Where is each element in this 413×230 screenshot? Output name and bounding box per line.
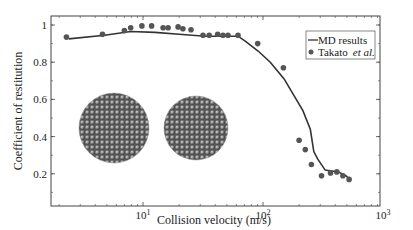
- takato-data-point: [128, 25, 134, 31]
- legend-dot-icon: [309, 50, 314, 55]
- chart-canvas: 0.20.40.60.81101102103 Collision velocit…: [0, 0, 413, 230]
- y-tick-label: 0.4: [33, 131, 47, 143]
- takato-data-point: [225, 32, 231, 38]
- legend: MD results Takatoet al.: [306, 31, 375, 59]
- y-tick-label: 0.2: [33, 168, 47, 180]
- takato-data-point: [346, 177, 352, 183]
- takato-data-point: [303, 147, 309, 153]
- takato-data-point: [180, 26, 186, 32]
- takato-data-point: [340, 173, 346, 179]
- takato-data-point: [165, 25, 171, 31]
- particle-cluster-images: [79, 93, 228, 163]
- legend-label-md: MD results: [318, 34, 367, 46]
- takato-data-point: [220, 32, 226, 38]
- particle-cluster-right: [164, 96, 228, 160]
- restitution-chart: 0.20.40.60.81101102103 Collision velocit…: [0, 0, 413, 230]
- takato-data-point: [100, 32, 106, 38]
- takato-data-point: [296, 138, 302, 144]
- takato-data-point: [149, 23, 155, 29]
- takato-data-point: [139, 23, 145, 29]
- y-tick-label: 0.8: [33, 56, 47, 68]
- takato-data-point: [188, 27, 194, 33]
- takato-data-point: [206, 32, 212, 38]
- takato-data-point: [122, 28, 128, 34]
- takato-data-point: [64, 34, 70, 40]
- takato-data-point: [215, 32, 221, 38]
- y-axis-label: Coefficient of restitution: [11, 52, 25, 170]
- takato-data-point: [328, 170, 334, 176]
- takato-data-point: [319, 173, 325, 179]
- takato-data-point: [309, 162, 315, 168]
- x-tick-label: 103: [376, 208, 391, 221]
- x-axis-label: Collision velocity (m/s): [157, 213, 271, 227]
- takato-data-point: [281, 65, 287, 71]
- takato-data-point: [235, 32, 241, 38]
- particle-cluster-left: [79, 93, 149, 163]
- takato-data-point: [200, 32, 206, 38]
- y-tick-label: 1: [42, 19, 48, 31]
- x-tick-label: 101: [136, 208, 151, 221]
- y-tick-label: 0.6: [33, 93, 47, 105]
- takato-data-point: [160, 25, 166, 31]
- takato-data-point: [334, 169, 340, 175]
- takato-data-point: [255, 41, 261, 47]
- legend-label-takato: Takatoet al.: [318, 46, 375, 58]
- takato-data-point: [175, 24, 181, 30]
